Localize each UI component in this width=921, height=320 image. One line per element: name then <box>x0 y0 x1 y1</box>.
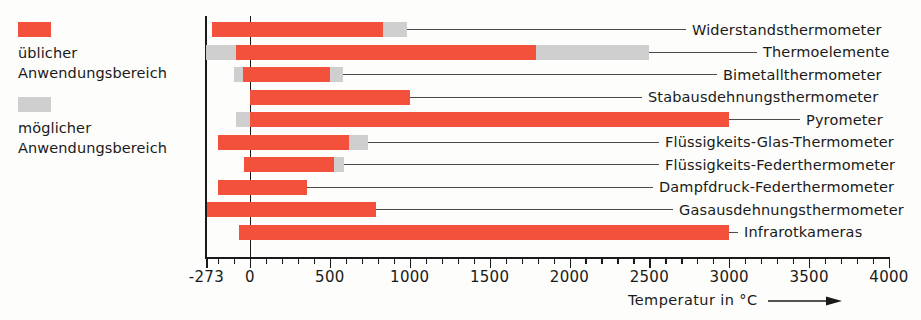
category-label: Bimetallthermometer <box>723 67 882 83</box>
leader-line <box>407 29 686 30</box>
leader-line <box>729 119 800 120</box>
x-axis-minor-tick <box>585 259 586 264</box>
x-axis-major-tick <box>570 259 571 268</box>
x-axis-major-tick <box>490 259 491 268</box>
x-axis-minor-tick <box>825 259 826 264</box>
x-axis-minor-tick <box>234 259 235 264</box>
category-label: Flüssigkeits-Federthermometer <box>665 157 895 173</box>
x-axis-tick-label: 1500 <box>470 268 509 286</box>
x-axis-tick-label: 0 <box>245 268 255 286</box>
x-axis-minor-tick <box>218 259 219 264</box>
x-axis-minor-tick <box>633 259 634 264</box>
leader-line <box>376 209 673 210</box>
x-axis-minor-tick <box>506 259 507 264</box>
leader-line <box>729 232 738 233</box>
x-axis-major-tick <box>410 259 411 268</box>
leader-line <box>368 142 659 143</box>
x-axis-minor-tick <box>665 259 666 264</box>
x-axis-tick-label: 500 <box>315 268 345 286</box>
x-axis-tick-label: 2500 <box>630 268 669 286</box>
x-axis-minor-tick <box>442 259 443 264</box>
x-axis-line <box>205 257 890 259</box>
x-axis-minor-tick <box>298 259 299 264</box>
bar-segment-usual <box>250 112 729 127</box>
x-axis-minor-tick <box>474 259 475 264</box>
x-axis-minor-tick <box>617 259 618 264</box>
bar-segment-usual <box>243 67 330 82</box>
bar-segment-usual <box>239 225 729 240</box>
x-axis-major-tick <box>206 259 207 268</box>
x-axis-minor-tick <box>426 259 427 264</box>
leader-line <box>410 97 642 98</box>
bar-segment-usual <box>207 202 376 217</box>
x-axis-minor-tick <box>282 259 283 264</box>
leader-line <box>649 52 757 53</box>
x-axis-minor-tick <box>713 259 714 264</box>
bar-segment-usual <box>218 135 349 150</box>
x-axis-minor-tick <box>458 259 459 264</box>
x-axis-tick-label: 3000 <box>710 268 749 286</box>
x-axis-minor-tick <box>873 259 874 264</box>
bar-segment-usual <box>244 157 334 172</box>
x-axis-tick-label: 4000 <box>869 268 908 286</box>
x-axis-minor-tick <box>378 259 379 264</box>
leader-line <box>307 187 653 188</box>
x-axis-minor-tick <box>266 259 267 264</box>
x-axis-tick-label: 1000 <box>390 268 429 286</box>
x-axis-title: Temperatur in °C <box>628 292 842 308</box>
x-axis-minor-tick <box>538 259 539 264</box>
x-axis-minor-tick <box>745 259 746 264</box>
bar-segment-usual <box>250 90 410 105</box>
bar-segment-usual <box>236 45 536 60</box>
x-axis-minor-tick <box>362 259 363 264</box>
x-axis-tick-label: -273 <box>189 268 224 286</box>
category-label: Widerstandsthermometer <box>692 22 882 38</box>
plot-area: -27305001000150020002500300035004000 Wid… <box>0 0 921 320</box>
temperature-range-chart: üblicher Anwendungsbereich möglicher Anw… <box>0 0 921 320</box>
x-axis-minor-tick <box>697 259 698 264</box>
x-axis-major-tick <box>889 259 890 268</box>
x-axis-minor-tick <box>761 259 762 264</box>
x-axis-minor-tick <box>857 259 858 264</box>
category-label: Gasausdehnungsthermometer <box>679 202 904 218</box>
category-label: Flüssigkeits-Glas-Thermometer <box>665 134 894 150</box>
x-axis-major-tick <box>330 259 331 268</box>
right-arrow-icon <box>768 295 842 307</box>
category-label: Pyrometer <box>806 112 883 128</box>
x-axis-tick-label: 2000 <box>550 268 589 286</box>
x-axis-minor-tick <box>522 259 523 264</box>
x-axis-minor-tick <box>601 259 602 264</box>
category-label: Thermoelemente <box>763 44 889 60</box>
x-axis-minor-tick <box>554 259 555 264</box>
x-axis-major-tick <box>809 259 810 268</box>
x-axis-minor-tick <box>777 259 778 264</box>
leader-line <box>343 74 717 75</box>
x-axis-tick-label: 3500 <box>789 268 828 286</box>
x-axis-minor-tick <box>681 259 682 264</box>
x-axis-title-text: Temperatur in °C <box>628 292 757 308</box>
leader-line <box>344 164 659 165</box>
x-axis-minor-tick <box>841 259 842 264</box>
x-axis-minor-tick <box>793 259 794 264</box>
x-axis-major-tick <box>250 259 251 268</box>
x-axis-minor-tick <box>346 259 347 264</box>
x-axis-minor-tick <box>394 259 395 264</box>
bar-segment-usual <box>218 180 307 195</box>
category-label: Dampfdruck-Federthermometer <box>659 179 894 195</box>
category-label: Stabausdehnungsthermometer <box>648 89 878 105</box>
x-axis-major-tick <box>649 259 650 268</box>
x-axis-minor-tick <box>314 259 315 264</box>
category-label: Infrarotkameras <box>744 224 862 240</box>
x-axis-major-tick <box>729 259 730 268</box>
bar-segment-usual <box>212 22 383 37</box>
